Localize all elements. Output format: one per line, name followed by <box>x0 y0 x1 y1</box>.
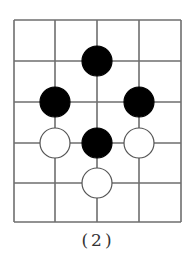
black-stone <box>40 87 70 117</box>
black-stone <box>82 46 112 76</box>
white-stone <box>124 128 154 158</box>
white-stone <box>82 168 112 198</box>
black-stone <box>82 128 112 158</box>
figure-caption: (2) <box>0 230 196 250</box>
white-stone <box>40 128 70 158</box>
black-stone <box>124 87 154 117</box>
